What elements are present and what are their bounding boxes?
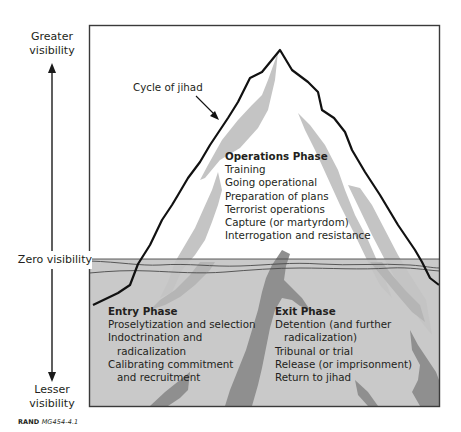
visibility-axis	[48, 63, 56, 382]
operations-item: Terrorist operations	[225, 203, 371, 216]
credit-org: RAND	[18, 418, 39, 426]
entry-item: Proselytization and selection	[108, 318, 256, 331]
exit-item-continuation: radicalization)	[275, 331, 412, 344]
entry-phase-title: Entry Phase	[108, 305, 256, 318]
cycle-of-jihad-label: Cycle of jihad	[133, 81, 203, 93]
entry-item-continuation: radicalization	[108, 345, 256, 358]
exit-item: Detention (and further	[275, 318, 412, 331]
operations-item: Interrogation and resistance	[225, 229, 371, 242]
entry-phase-block: Entry Phase Proselytization and selectio…	[108, 305, 256, 384]
operations-item: Going operational	[225, 176, 371, 189]
exit-item: Release (or imprisonment)	[275, 358, 412, 371]
credit-id: MG454-4.1	[42, 418, 79, 426]
exit-phase-block: Exit Phase Detention (and further radica…	[275, 305, 412, 384]
operations-item: Capture (or martyrdom)	[225, 216, 371, 229]
operations-item: Preparation of plans	[225, 190, 371, 203]
operations-phase-title: Operations Phase	[225, 150, 371, 163]
figure-credit: RAND MG454-4.1	[18, 418, 78, 426]
lesser-visibility-line-1: Lesser	[18, 383, 86, 397]
operations-item: Training	[225, 163, 371, 176]
lesser-visibility-line-2: visibility	[18, 397, 86, 411]
exit-item: Return to jihad	[275, 371, 412, 384]
arrow-up-icon	[48, 63, 56, 73]
operations-phase-block: Operations Phase Training Going operatio…	[225, 150, 371, 242]
entry-item: Calibrating commitment	[108, 358, 256, 371]
entry-item-continuation: and recruitment	[108, 371, 256, 384]
entry-item: Indoctrination and	[108, 331, 256, 344]
arrow-down-icon	[48, 372, 56, 382]
zero-visibility-label: Zero visibility	[0, 251, 92, 269]
exit-item: Tribunal or trial	[275, 345, 412, 358]
lesser-visibility-label: Lesser visibility	[18, 383, 86, 411]
exit-phase-title: Exit Phase	[275, 305, 412, 318]
